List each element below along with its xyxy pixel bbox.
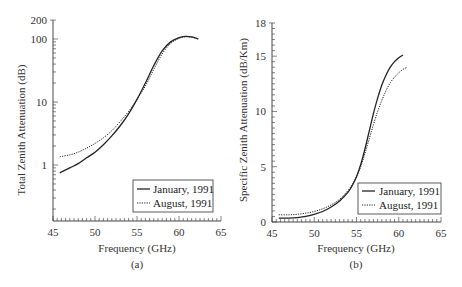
chart-a-lines	[60, 36, 199, 173]
chart-b: 455055606505101518 Specific Zenith Atten…	[237, 17, 447, 271]
y-tick-label: 10	[255, 105, 267, 117]
y-tick-label: 200	[31, 14, 48, 26]
y-tick-label: 5	[261, 161, 267, 173]
x-tick-label: 60	[393, 227, 405, 239]
legend-item-august: August, 1991	[379, 199, 438, 211]
chart-a-caption: (a)	[131, 258, 144, 271]
figure: 4550556065110100200 Total Zenith Attenua…	[0, 0, 462, 287]
x-tick-label: 55	[351, 227, 363, 239]
chart-a-legend: January, 1991 August, 1991	[133, 180, 214, 212]
series-january-line	[60, 36, 199, 173]
y-tick-label: 0	[261, 216, 267, 228]
y-tick-label: 10	[36, 96, 48, 108]
x-tick-label: 50	[90, 226, 102, 238]
x-tick-label: 65	[436, 227, 448, 239]
x-tick-label: 45	[267, 227, 279, 239]
chart-b-legend: January, 1991 August, 1991	[358, 183, 441, 214]
legend-item-august: August, 1991	[153, 197, 212, 209]
x-tick-label: 50	[309, 227, 321, 239]
y-tick-label: 1	[42, 159, 48, 171]
series-august-line	[60, 37, 199, 157]
chart-b-xlabel: Frequency (GHz)	[317, 242, 395, 255]
legend-item-january: January, 1991	[379, 185, 440, 197]
x-tick-label: 65	[216, 226, 228, 238]
x-tick-label: 60	[174, 226, 186, 238]
chart-a-xlabel: Frequency (GHz)	[98, 242, 176, 255]
x-tick-label: 55	[132, 226, 144, 238]
x-tick-label: 45	[48, 226, 60, 238]
chart-b-ylabel: Specific Zenith Attenuation (dB/Km)	[237, 38, 250, 202]
legend-item-january: January, 1991	[153, 183, 214, 195]
chart-a: 4550556065110100200 Total Zenith Attenua…	[15, 14, 227, 271]
chart-b-caption: (b)	[350, 258, 363, 271]
y-tick-label: 18	[255, 17, 267, 29]
y-tick-label: 100	[31, 33, 48, 45]
chart-a-ylabel: Total Zenith Attenuation (dB)	[15, 64, 28, 195]
y-tick-label: 15	[255, 50, 267, 62]
